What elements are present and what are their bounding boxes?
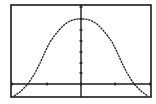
function-graph (0, 0, 156, 104)
calculator-graph-screen (0, 0, 156, 104)
